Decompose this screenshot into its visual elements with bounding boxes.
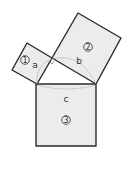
side-c-label: c [64,94,69,104]
side-a-label: a [32,60,38,70]
square-1-number: 1 [22,56,27,65]
square-3-number: 3 [63,116,68,125]
pythagorean-diagram: 1 a 2 b c 3 [0,0,127,169]
side-b-label: b [76,56,82,66]
square-2-number: 2 [85,43,90,52]
